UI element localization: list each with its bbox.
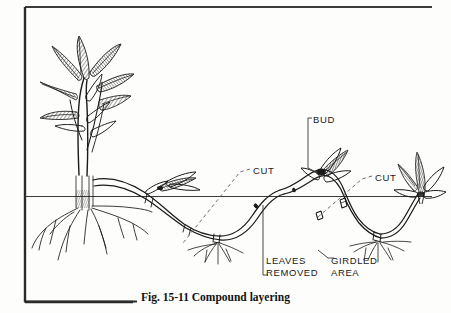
mother-plant [40, 36, 134, 210]
label-cut-left: CUT [253, 165, 274, 176]
label-girdled-area-line2: AREA [331, 267, 359, 278]
figure-container: BUD CUT CUT LEAVES REMOVED GIRDLED AREA … [0, 0, 451, 313]
label-leaves-removed-line2: REMOVED [266, 267, 318, 278]
label-leaves-removed-line1: LEAVES [266, 255, 306, 266]
bud-shoot [301, 148, 351, 182]
girdled-band [316, 198, 347, 220]
mother-plant-roots [32, 206, 152, 260]
label-girdled-area-line1: GIRDLED [331, 255, 377, 266]
label-bud: BUD [313, 114, 335, 125]
figure-caption: Fig. 15-11 Compound layering [141, 291, 290, 303]
label-cut-right: CUT [375, 172, 396, 183]
leaf-cluster-mid [146, 172, 200, 194]
compound-layering-illustration [0, 0, 451, 313]
